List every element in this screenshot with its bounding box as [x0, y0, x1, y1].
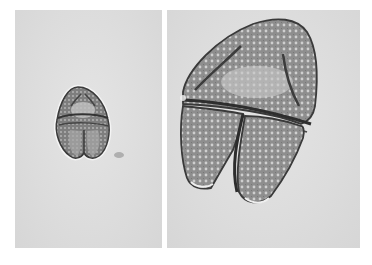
smudge-artifact: [114, 152, 124, 158]
pollen-grain-small: [15, 10, 162, 248]
micrograph-panel-right: [167, 10, 360, 248]
micrograph-panel-left: [15, 10, 162, 248]
pollen-grain-large: [167, 10, 360, 248]
